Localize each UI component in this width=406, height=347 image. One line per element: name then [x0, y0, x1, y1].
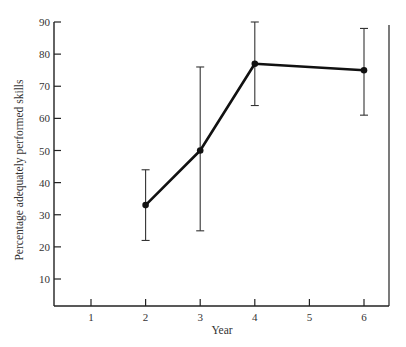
data-point-marker [197, 147, 204, 154]
x-tick-label: 2 [143, 311, 149, 323]
line-chart: 102030405060708090 123456 Year Percentag… [0, 0, 406, 347]
y-axis-ticks: 102030405060708090 [39, 16, 61, 285]
y-tick-label: 20 [39, 241, 51, 253]
y-tick-label: 90 [39, 16, 51, 28]
x-tick-label: 4 [252, 311, 258, 323]
x-tick-label: 1 [88, 311, 94, 323]
error-bars [142, 22, 368, 240]
x-axis-ticks: 123456 [88, 299, 367, 323]
x-tick-label: 3 [197, 311, 203, 323]
y-tick-label: 10 [39, 273, 51, 285]
data-point-marker [361, 67, 368, 74]
y-tick-label: 40 [39, 177, 51, 189]
y-tick-label: 30 [39, 209, 51, 221]
y-axis-title: Percentage adequately performed skills [13, 79, 26, 261]
axes [54, 22, 389, 306]
y-tick-label: 50 [39, 145, 51, 157]
data-point-marker [142, 202, 149, 209]
y-tick-label: 70 [39, 80, 51, 92]
x-tick-label: 5 [307, 311, 313, 323]
x-axis-title: Year [211, 324, 232, 336]
y-tick-label: 80 [39, 48, 51, 60]
y-tick-label: 60 [39, 112, 51, 124]
data-point-marker [252, 60, 259, 67]
x-tick-label: 6 [361, 311, 367, 323]
